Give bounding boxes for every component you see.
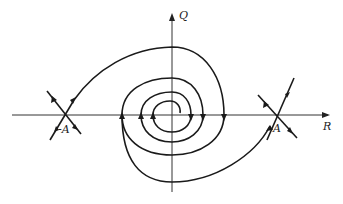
r-axis-arrow-icon (322, 112, 330, 118)
q-axis-label: Q (179, 10, 188, 21)
phase-portrait (0, 0, 343, 204)
r-axis-label: R (323, 121, 331, 132)
point-label-a: A (273, 123, 281, 134)
r-axis (12, 112, 330, 118)
arrow-down-icon (221, 114, 227, 121)
q-axis-arrow-icon (169, 13, 175, 21)
point-label-minus-a: -A (58, 124, 70, 135)
arrow-down-icon (200, 114, 206, 121)
arrow-down-icon (188, 114, 194, 121)
